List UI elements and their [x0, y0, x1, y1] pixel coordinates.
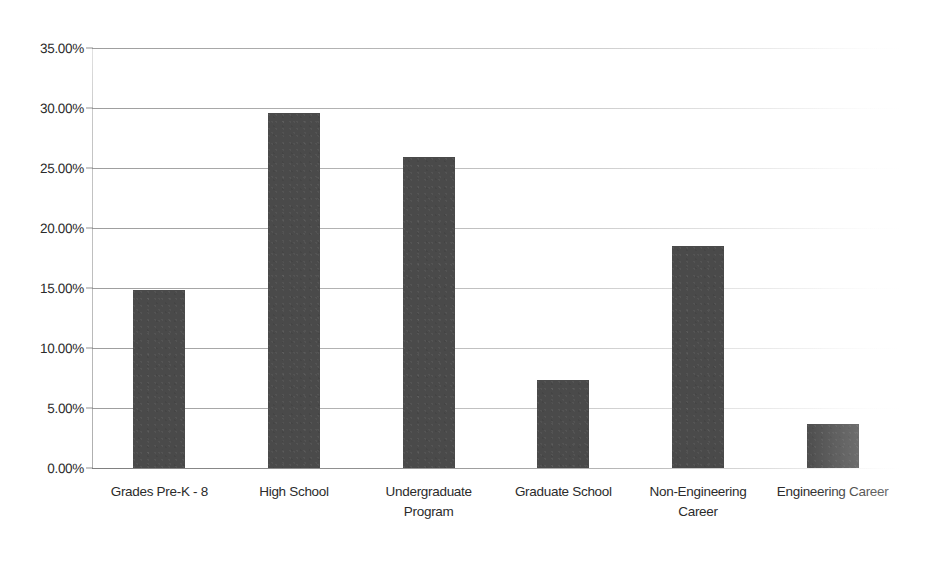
bar — [403, 157, 455, 468]
x-axis-category-label: High School — [230, 482, 359, 502]
bar-chart-figure: 0.00%5.00%10.00%15.00%20.00%25.00%30.00%… — [0, 0, 931, 562]
bar — [807, 424, 859, 468]
gridline — [92, 48, 900, 49]
y-axis-tick-label: 15.00% — [0, 281, 84, 296]
y-axis-tick-label: 5.00% — [0, 401, 84, 416]
bar — [133, 290, 185, 468]
gridline — [92, 408, 900, 409]
gridline — [92, 168, 900, 169]
x-axis-category-label: Graduate School — [499, 482, 628, 502]
x-axis-category-label: Engineering Career — [768, 482, 897, 502]
y-axis-tick-label: 35.00% — [0, 41, 84, 56]
gridline — [92, 108, 900, 109]
bar — [268, 113, 320, 468]
x-axis-category-label: Non-Engineering Career — [634, 482, 763, 522]
bar — [537, 380, 589, 468]
y-axis-tick-label: 30.00% — [0, 101, 84, 116]
y-axis-tick-label: 25.00% — [0, 161, 84, 176]
gridline — [92, 348, 900, 349]
gridline — [92, 228, 900, 229]
y-axis-tick-label: 20.00% — [0, 221, 84, 236]
gridline — [92, 468, 900, 469]
gridline — [92, 288, 900, 289]
y-axis-tick-label: 0.00% — [0, 461, 84, 476]
x-axis-category-label: Undergraduate Program — [364, 482, 493, 522]
bar — [672, 246, 724, 468]
y-axis-tick-label: 10.00% — [0, 341, 84, 356]
x-axis-category-label: Grades Pre-K - 8 — [95, 482, 224, 502]
plot-area — [92, 48, 900, 468]
